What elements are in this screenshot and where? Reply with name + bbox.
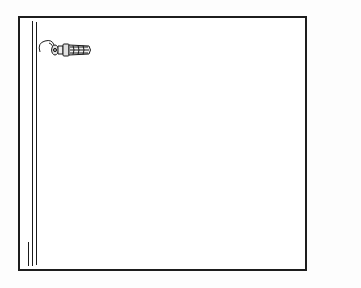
- name-line: [24, 242, 29, 266]
- page-canvas: [0, 0, 361, 288]
- header-rule: [32, 21, 33, 266]
- worksheet-page: [18, 16, 307, 271]
- eggbeater-illustration: [36, 30, 96, 66]
- worksheet-header: [20, 18, 33, 269]
- worksheet-rotation-wrapper: [18, 16, 307, 271]
- name-answer: [23, 242, 29, 266]
